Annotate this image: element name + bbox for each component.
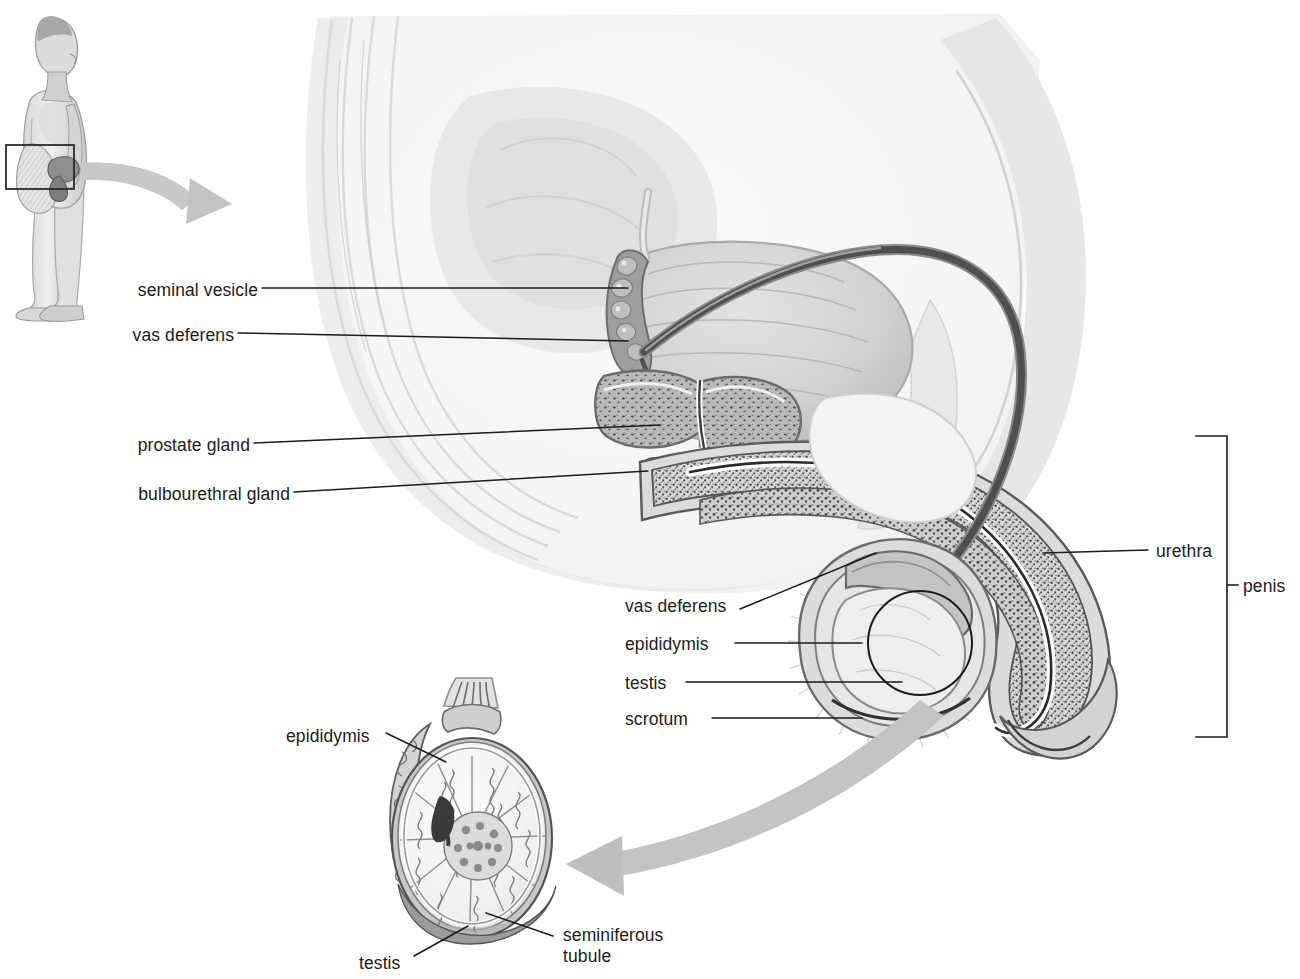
label-seminal-vesicle: seminal vesicle bbox=[0, 280, 258, 301]
label-penis: penis bbox=[1243, 576, 1285, 597]
label-vas-deferens-lower: vas deferens bbox=[625, 596, 726, 617]
label-bulbourethral-gland: bulbourethral gland bbox=[0, 484, 290, 505]
label-testis-main: testis bbox=[625, 673, 666, 694]
label-prostate-gland: prostate gland bbox=[0, 435, 250, 456]
top-callout-arrow bbox=[80, 163, 232, 224]
label-seminiferous-tubule: seminiferous tubule bbox=[563, 925, 693, 966]
label-seminiferous-tubule-line1: seminiferous bbox=[563, 925, 663, 945]
testis-inset-illustration bbox=[390, 678, 560, 952]
label-vas-deferens-upper: vas deferens bbox=[0, 325, 234, 346]
label-seminiferous-tubule-line2: tubule bbox=[563, 946, 611, 966]
pelvic-sagittal-section bbox=[306, 14, 1117, 759]
label-urethra: urethra bbox=[1156, 541, 1212, 562]
body-locator-figure bbox=[6, 16, 87, 321]
figure-canvas: seminal vesicle vas deferens prostate gl… bbox=[0, 0, 1300, 979]
bottom-callout-arrow bbox=[566, 700, 944, 896]
label-scrotum: scrotum bbox=[625, 709, 688, 730]
label-testis-inset: testis bbox=[359, 953, 400, 974]
label-epididymis-main: epididymis bbox=[625, 634, 709, 655]
label-epididymis-inset: epididymis bbox=[286, 726, 370, 747]
penis-extent-bracket bbox=[1196, 436, 1238, 737]
